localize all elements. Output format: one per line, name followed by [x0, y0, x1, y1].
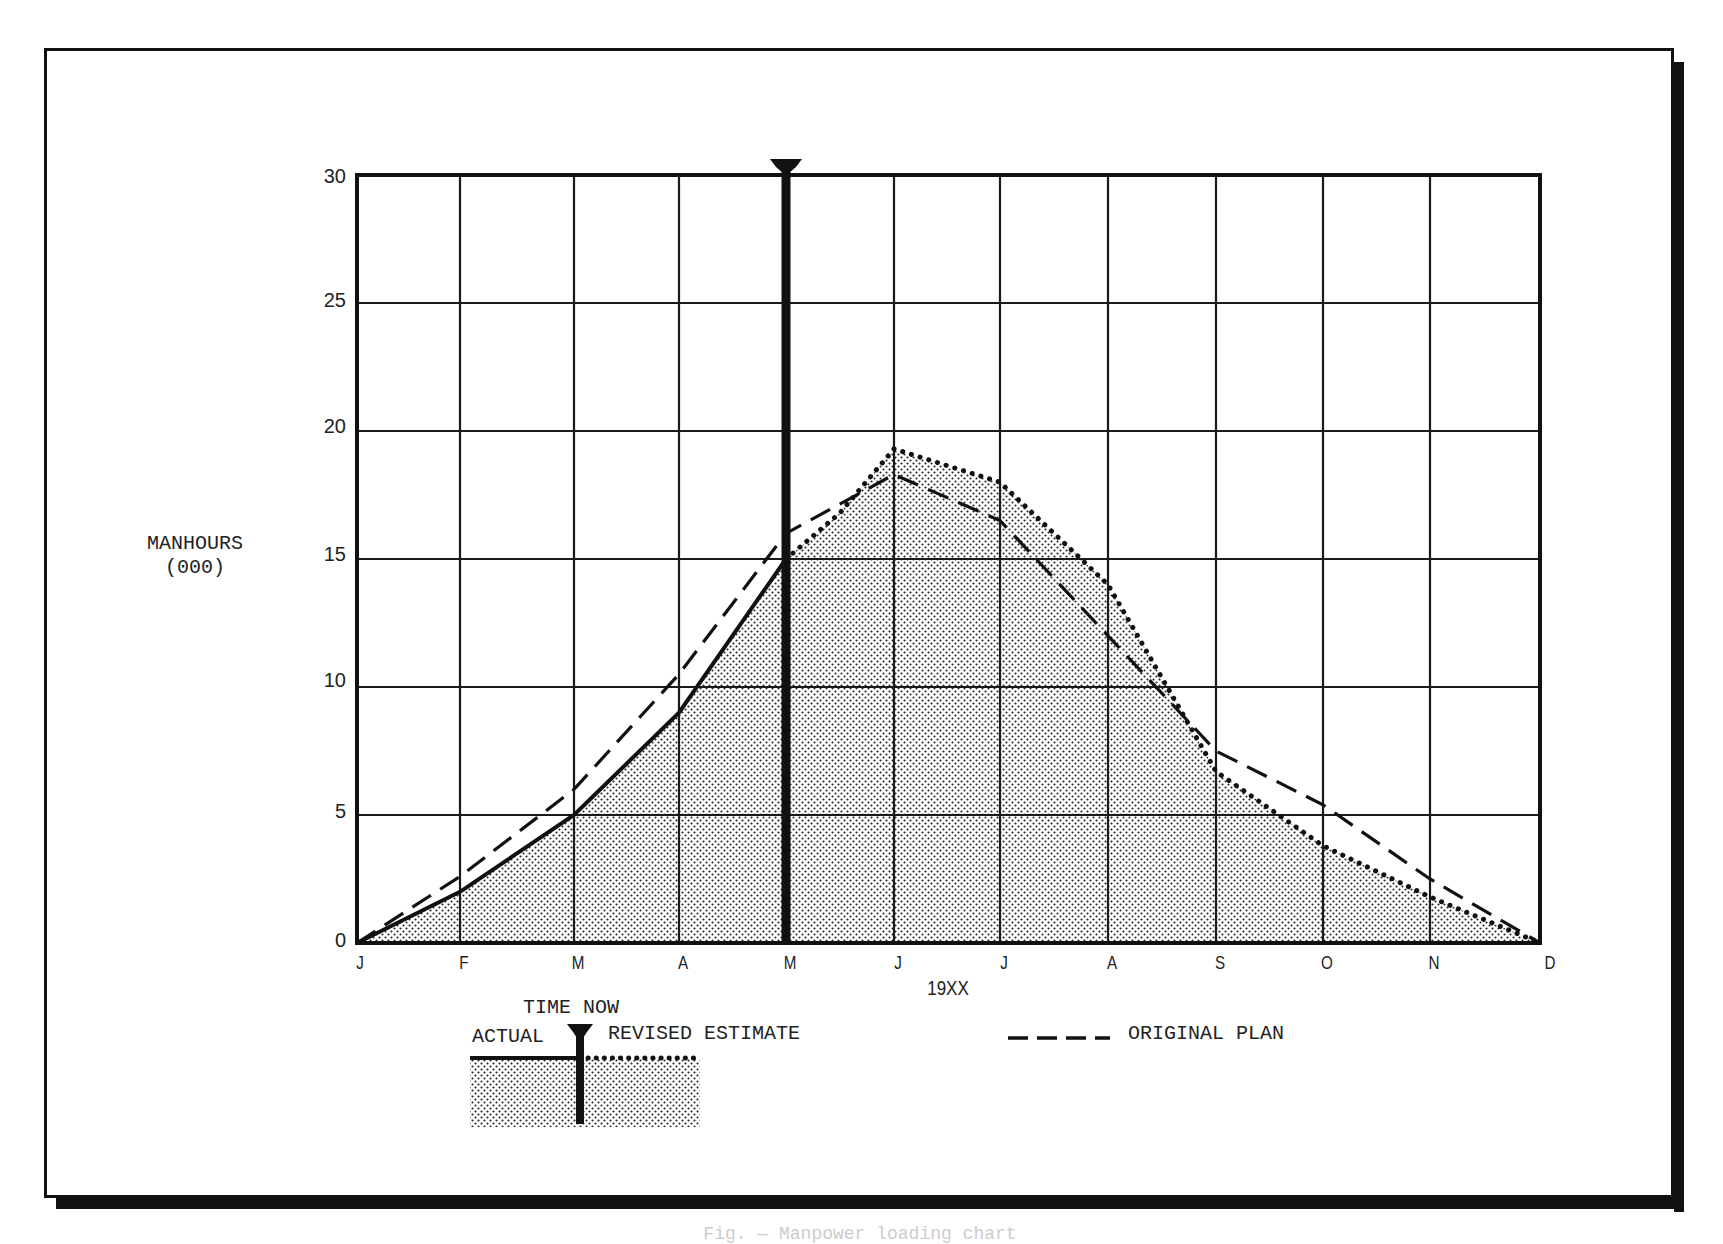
- x-tick-may: M: [778, 952, 802, 974]
- x-tick-jun: J: [886, 952, 910, 974]
- x-tick-oct: O: [1315, 952, 1339, 974]
- y-tick-25: 25: [306, 289, 346, 312]
- x-tick-mar: M: [566, 952, 590, 974]
- legend-time-now-label: TIME NOW: [523, 996, 619, 1019]
- x-tick-dec: D: [1538, 952, 1562, 974]
- legend-revised-label: REVISED ESTIMATE: [608, 1022, 800, 1045]
- y-tick-0: 0: [306, 929, 346, 952]
- x-tick-sep: S: [1208, 952, 1232, 974]
- shaded-area: [357, 449, 1540, 943]
- x-tick-aug: A: [1100, 952, 1124, 974]
- x-tick-jul: J: [992, 952, 1016, 974]
- y-axis-title-line1: MANHOURS: [120, 532, 270, 556]
- legend-original-label: ORIGINAL PLAN: [1128, 1022, 1284, 1045]
- y-tick-10: 10: [306, 669, 346, 692]
- x-axis-title: 19XX: [923, 977, 974, 1000]
- y-tick-5: 5: [306, 800, 346, 823]
- figure-caption: Fig. — Manpower loading chart: [600, 1224, 1120, 1244]
- y-axis-title: MANHOURS (000): [120, 532, 270, 580]
- x-tick-apr: A: [671, 952, 695, 974]
- x-tick-feb: F: [452, 952, 476, 974]
- y-tick-15: 15: [306, 543, 346, 566]
- legend-actual-label: ACTUAL: [472, 1025, 544, 1048]
- y-axis-title-line2: (000): [120, 556, 270, 580]
- y-tick-30: 30: [306, 165, 346, 188]
- x-tick-jan: J: [348, 952, 372, 974]
- x-tick-nov: N: [1422, 952, 1446, 974]
- y-tick-20: 20: [306, 415, 346, 438]
